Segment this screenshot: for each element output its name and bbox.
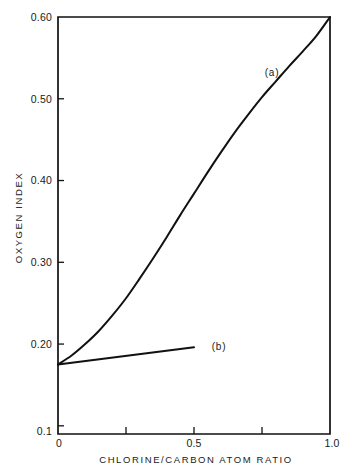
y-axis-title: OXYGEN INDEX (13, 172, 24, 264)
oxygen-index-line-chart: 00.51.0 0.600.500.400.300.200.1 (a)(b) C… (0, 0, 348, 470)
y-tick-label: 0.1 (37, 425, 52, 437)
y-tick-label: 0.20 (31, 338, 52, 350)
curve-label-a: (a) (265, 67, 280, 78)
curve-label-b: (b) (212, 341, 227, 352)
y-tick-label: 0.50 (31, 93, 52, 105)
chart-background (0, 0, 348, 470)
y-tick-label: 0.30 (31, 256, 52, 268)
y-tick-label: 0.60 (31, 11, 52, 23)
x-tick-label: 1.0 (324, 437, 339, 449)
x-tick-label: 0 (56, 437, 62, 449)
x-tick-label: 0.5 (186, 437, 201, 449)
x-axis-title: CHLORINE/CARBON ATOM RATIO (99, 454, 293, 465)
chart-figure: 00.51.0 0.600.500.400.300.200.1 (a)(b) C… (0, 0, 348, 470)
y-tick-label: 0.40 (31, 174, 52, 186)
